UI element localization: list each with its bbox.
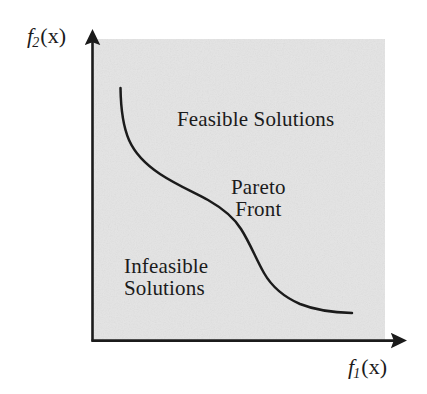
feasible-solutions-label: Feasible Solutions	[177, 108, 334, 130]
infeasible-solutions-line1: Infeasible	[124, 255, 208, 277]
y-axis-label-suffix: (x)	[40, 23, 66, 48]
pareto-front-label: Pareto Front	[231, 176, 286, 221]
y-axis-label-subscript: 2	[32, 35, 39, 50]
x-axis-label-subscript: 1	[353, 366, 360, 381]
infeasible-solutions-line2: Solutions	[124, 277, 208, 299]
pareto-front-label-line1: Pareto	[231, 176, 286, 198]
infeasible-solutions-label: Infeasible Solutions	[124, 255, 208, 300]
feasible-solutions-text: Feasible Solutions	[177, 108, 334, 130]
pareto-front-label-line2: Front	[231, 198, 286, 220]
pareto-front-figure: f2(x) f1(x) Feasible Solutions Pareto Fr…	[0, 0, 427, 394]
x-axis-label: f1(x)	[348, 355, 387, 378]
x-axis-label-suffix: (x)	[361, 354, 387, 379]
y-axis-label: f2(x)	[27, 24, 66, 47]
figure-canvas	[0, 0, 427, 394]
